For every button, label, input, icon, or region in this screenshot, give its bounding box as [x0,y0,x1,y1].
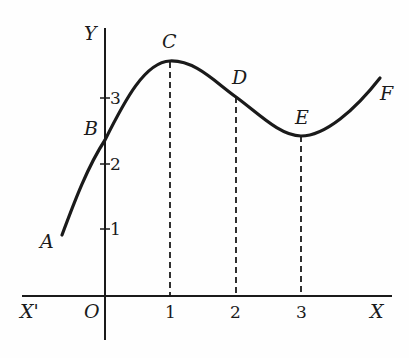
point-label-e: E [294,106,309,128]
point-label-f: F [379,82,394,104]
diagram-canvas: Y X X' O 1 2 3 1 2 3 A B C D E F [0,0,409,358]
y-tick-label-3: 3 [110,88,121,108]
point-label-a: A [38,230,54,252]
origin-label: O [84,300,100,322]
y-axis-label: Y [84,22,99,44]
y-tick-label-1: 1 [110,219,121,239]
x-tick-label-1: 1 [165,302,176,322]
y-tick-label-2: 2 [110,154,121,174]
x-neg-axis-label: X' [18,300,39,322]
point-label-c: C [162,30,177,52]
curve-diagram: Y X X' O 1 2 3 1 2 3 A B C D E F [0,0,409,358]
x-axis-label: X [368,300,385,322]
point-label-b: B [83,117,98,139]
x-tick-label-2: 2 [230,302,241,322]
x-tick-label-3: 3 [296,302,307,322]
point-label-d: D [231,66,247,88]
